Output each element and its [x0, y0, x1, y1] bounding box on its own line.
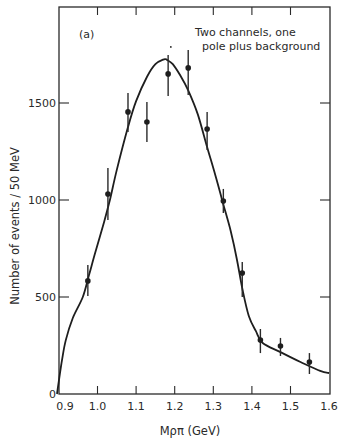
data-marker: [204, 126, 210, 132]
x-tick-label: 0.9: [56, 400, 74, 413]
fit-curve: [57, 59, 329, 394]
x-tick-label: 1.1: [127, 400, 145, 413]
plot-frame: [59, 7, 330, 394]
data-point: [258, 329, 264, 353]
data-marker: [307, 359, 313, 365]
data-marker: [278, 343, 284, 349]
data-marker: [258, 337, 264, 343]
data-marker: [125, 109, 131, 115]
y-axis-tick-labels: 050010001500: [28, 97, 56, 401]
y-axis-ticks: [59, 103, 330, 297]
small-dot-above-peak: [170, 46, 172, 48]
panel-label: (a): [79, 28, 94, 41]
data-marker: [85, 278, 91, 284]
data-point: [204, 112, 210, 150]
data-marker: [165, 71, 171, 77]
data-point: [125, 93, 131, 132]
data-marker: [239, 270, 245, 276]
y-tick-label: 0: [49, 388, 56, 401]
extra-marks: [170, 46, 172, 48]
annotation-line-2: pole plus background: [202, 40, 320, 53]
x-tick-label: 1.5: [282, 400, 300, 413]
x-tick-label: 1.3: [205, 400, 223, 413]
data-points: [85, 50, 312, 374]
data-marker: [144, 119, 150, 125]
y-tick-label: 1500: [28, 97, 56, 110]
x-tick-label: 1.6: [320, 400, 338, 413]
x-tick-label: 1.0: [89, 400, 107, 413]
data-marker: [221, 198, 227, 204]
x-axis-tick-labels: 0.91.01.11.21.31.41.51.6: [56, 400, 338, 413]
data-marker: [105, 191, 111, 197]
y-tick-label: 500: [35, 291, 56, 304]
x-tick-label: 1.4: [243, 400, 261, 413]
x-axis-title: Mρπ (GeV): [160, 424, 221, 438]
chart: 0.91.01.11.21.31.41.51.6 050010001500 (a…: [0, 0, 347, 442]
data-point: [307, 353, 313, 374]
annotation-line-1: Two channels, one: [194, 26, 296, 39]
x-tick-label: 1.2: [166, 400, 184, 413]
x-axis-ticks: [98, 7, 291, 394]
y-tick-label: 1000: [28, 194, 56, 207]
data-point: [144, 102, 150, 142]
data-marker: [185, 65, 191, 71]
y-axis-title: Number of events / 50 MeV: [8, 147, 22, 305]
